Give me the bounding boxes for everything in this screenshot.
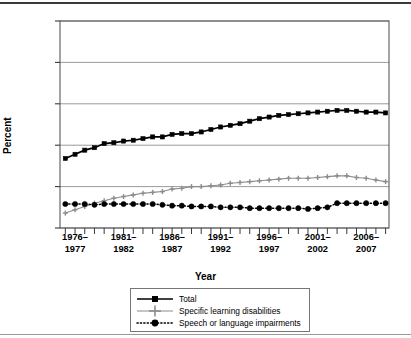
series-marker-2 — [228, 205, 233, 210]
legend-sample-glyph — [135, 305, 175, 317]
series-marker-0 — [92, 146, 96, 150]
series-marker-2 — [150, 201, 155, 206]
x-axis-tick-label-line1: 1981– — [100, 231, 148, 243]
legend-marker-circle-icon — [135, 317, 175, 329]
x-axis-tick-labels: 1976–19771981–19821986–19871991–19921996… — [0, 231, 411, 267]
series-marker-2 — [364, 201, 369, 206]
series-marker-2 — [111, 201, 116, 206]
series-marker-2 — [344, 201, 349, 206]
series-marker-0 — [248, 119, 252, 123]
series-marker-2 — [72, 201, 77, 206]
series-marker-2 — [82, 201, 87, 206]
series-marker-2 — [121, 201, 126, 206]
series-marker-2 — [208, 204, 213, 209]
series-marker-0 — [160, 135, 164, 139]
series-marker-2 — [169, 203, 174, 208]
x-axis-tick-label-line1: 2001– — [294, 231, 342, 243]
series-marker-0 — [364, 110, 368, 114]
x-axis-tick-label-line2: 1977 — [51, 243, 99, 255]
series-marker-2 — [140, 201, 145, 206]
x-axis-tick-label-line1: 1976– — [51, 231, 99, 243]
series-marker-0 — [83, 148, 87, 152]
series-marker-0 — [354, 109, 358, 113]
x-axis-tick-label: 2001–2002 — [294, 231, 342, 255]
series-marker-0 — [209, 127, 213, 131]
series-marker-0 — [112, 141, 116, 145]
legend-item-label: Total — [179, 294, 197, 304]
chart-legend: TotalSpecific learning disabilitiesSpeec… — [130, 288, 310, 332]
series-marker-0 — [141, 136, 145, 140]
series-marker-2 — [199, 204, 204, 209]
series-marker-2 — [296, 206, 301, 211]
series-marker-2 — [218, 205, 223, 210]
series-marker-2 — [257, 206, 262, 211]
series-marker-2 — [237, 205, 242, 210]
series-marker-2 — [179, 203, 184, 208]
series-marker-2 — [276, 206, 281, 211]
x-axis-tick-label-line2: 1992 — [197, 243, 245, 255]
x-axis-tick-label-line1: 1991– — [197, 231, 245, 243]
series-marker-0 — [131, 138, 135, 142]
series-marker-0 — [267, 115, 271, 119]
legend-item-label: Speech or language impairments — [179, 318, 301, 328]
series-marker-0 — [257, 117, 261, 121]
series-marker-0 — [238, 122, 242, 126]
series-line-0 — [65, 110, 385, 158]
series-marker-2 — [247, 206, 252, 211]
series-marker-0 — [121, 139, 125, 143]
plot-frame — [60, 21, 389, 228]
x-axis-tick-label-line2: 2007 — [342, 243, 390, 255]
legend-item: Specific learning disabilities — [135, 304, 280, 317]
x-axis-tick-label-line2: 1997 — [245, 243, 293, 255]
series-marker-2 — [189, 204, 194, 209]
series-marker-2 — [102, 201, 107, 206]
series-marker-0 — [296, 112, 300, 116]
chart-figure: 0510152025 1976–19771981–19821986–198719… — [0, 0, 411, 338]
x-axis-tick-label-line1: 2006– — [342, 231, 390, 243]
series-marker-2 — [315, 206, 320, 211]
x-axis-tick-label: 1981–1982 — [100, 231, 148, 255]
legend-marker-plus-icon — [135, 305, 175, 317]
x-axis-tick-label: 1976–1977 — [51, 231, 99, 255]
series-marker-0 — [102, 141, 106, 145]
series-marker-2 — [286, 206, 291, 211]
series-marker-2 — [131, 201, 136, 206]
series-marker-2 — [305, 206, 310, 211]
x-axis-tick-label-line1: 1986– — [148, 231, 196, 243]
series-marker-0 — [374, 110, 378, 114]
x-axis-tick-label: 2006–2007 — [342, 231, 390, 255]
x-axis-tick-label: 1986–1987 — [148, 231, 196, 255]
x-axis-tick-label-line2: 2002 — [294, 243, 342, 255]
legend-sample-glyph — [135, 293, 175, 305]
series-marker-0 — [345, 108, 349, 112]
x-axis-title: Year — [0, 271, 411, 282]
series-marker-2 — [92, 202, 97, 207]
series-marker-0 — [384, 111, 388, 115]
y-axis-title: Percent — [2, 117, 13, 154]
legend-item: Speech or language impairments — [135, 317, 301, 330]
series-marker-0 — [306, 111, 310, 115]
series-marker-0 — [286, 112, 290, 116]
x-axis-tick-label-line2: 1982 — [100, 243, 148, 255]
series-marker-0 — [335, 108, 339, 112]
series-marker-2 — [334, 201, 339, 206]
series-marker-2 — [373, 201, 378, 206]
x-axis-tick-label-line1: 1996– — [245, 231, 293, 243]
series-marker-2 — [383, 201, 388, 206]
series-marker-2 — [63, 201, 68, 206]
x-axis-tick-label: 1996–1997 — [245, 231, 293, 255]
legend-sample-glyph — [135, 317, 175, 329]
series-marker-0 — [199, 130, 203, 134]
series-marker-0 — [228, 123, 232, 127]
series-marker-0 — [316, 110, 320, 114]
series-marker-0 — [219, 125, 223, 129]
legend-item: Total — [135, 292, 197, 305]
series-marker-0 — [277, 113, 281, 117]
y-axis-title-wrap: Percent — [2, 92, 16, 162]
series-marker-0 — [189, 132, 193, 136]
series-marker-2 — [354, 201, 359, 206]
series-marker-2 — [325, 205, 330, 210]
legend-item-label: Specific learning disabilities — [179, 306, 280, 316]
series-marker-0 — [73, 152, 77, 156]
x-axis-tick-label: 1991–1992 — [197, 231, 245, 255]
